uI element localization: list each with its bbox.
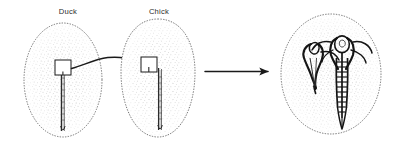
- duck-graft-square: [55, 60, 71, 75]
- duck-label: Duck: [59, 7, 77, 16]
- chick-label: Chick: [149, 7, 169, 16]
- embryo-graft-figure: Duck: [0, 0, 400, 147]
- result-blastoderm: [281, 14, 381, 134]
- chick-primitive-streak: [158, 68, 163, 130]
- chick-graft-square: [141, 57, 157, 72]
- result-stipple-overlay: [281, 14, 381, 134]
- panel-result-twinned-embryo: [281, 14, 381, 134]
- duck-primitive-streak: [61, 70, 66, 131]
- figure-canvas: Duck: [0, 0, 400, 147]
